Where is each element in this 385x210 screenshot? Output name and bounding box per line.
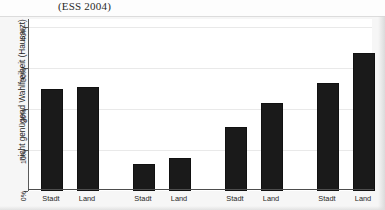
bar [261, 103, 283, 191]
y-tick-label: 30% [20, 68, 28, 94]
y-tick-label-wrap: 40% [16, 23, 24, 31]
x-tick-label: Land [159, 194, 199, 203]
y-tick-label-wrap: 20% [16, 105, 24, 113]
bar [41, 89, 63, 191]
x-axis-line [28, 189, 374, 190]
bar [317, 83, 339, 191]
bar [133, 164, 155, 191]
y-tick-label: 40% [20, 27, 28, 53]
figure-caption: (ESS 2004) [0, 0, 385, 16]
y-tick-label-wrap: 30% [16, 64, 24, 72]
x-tick-label: Land [343, 194, 383, 203]
caption-text: (ESS 2004) [58, 0, 111, 12]
page-edge-shadow [378, 16, 385, 210]
y-tick-label: 10% [20, 150, 28, 176]
chart-figure: nicht genügend Wahlfreiheit (Hausarzt) 4… [0, 16, 385, 210]
gridline [29, 68, 372, 69]
x-tick-label: Stadt [215, 194, 255, 203]
x-tick-label: Stadt [307, 194, 347, 203]
bar [353, 53, 375, 191]
bar [225, 127, 247, 191]
x-tick-label: Stadt [31, 194, 71, 203]
plot-inner [29, 19, 372, 191]
plot-area [28, 19, 372, 191]
bar [169, 158, 191, 191]
x-tick-label: Stadt [123, 194, 163, 203]
gridline [29, 191, 372, 192]
bar [77, 87, 99, 191]
gridline [29, 27, 372, 28]
y-tick-label-wrap: 0% [16, 187, 24, 195]
page-bottom-shadow [0, 206, 385, 210]
x-tick-label: Land [251, 194, 291, 203]
y-tick-label: 20% [20, 109, 28, 135]
figure-root: (ESS 2004) nicht genügend Wahlfreiheit (… [0, 0, 385, 210]
x-tick-label: Land [67, 194, 107, 203]
y-tick-label-wrap: 10% [16, 146, 24, 154]
